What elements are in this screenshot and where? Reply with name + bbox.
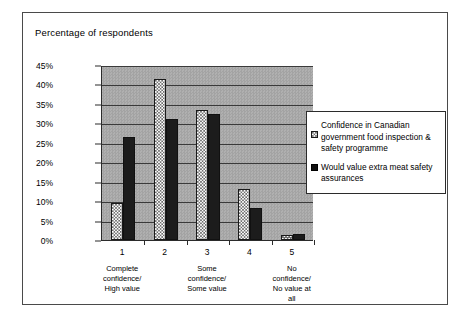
x-axis-tick-mark bbox=[229, 240, 230, 245]
y-axis-tick-label: 0% bbox=[17, 236, 53, 246]
legend-entry-series-b: Would value extra meat safety assurances bbox=[311, 162, 440, 185]
bar-series-a-2 bbox=[154, 79, 166, 240]
x-axis-tick-mark bbox=[144, 240, 145, 245]
x-axis-category-description-line: Some bbox=[186, 264, 228, 274]
bar-series-a-5 bbox=[281, 235, 293, 240]
gridline bbox=[102, 105, 313, 106]
x-axis-tick-mark bbox=[314, 240, 315, 245]
chart-legend: Confidence in Canadian government food i… bbox=[306, 111, 446, 194]
bar-series-a-4 bbox=[238, 189, 250, 240]
x-axis-category-1: 1Completeconfidence/High value bbox=[101, 247, 143, 294]
chart-frame: Percentage of respondents 0%5%10%15%20%2… bbox=[22, 12, 448, 305]
x-axis-category-description-line: Some value bbox=[186, 284, 228, 294]
y-axis-tick-label: 5% bbox=[17, 217, 53, 227]
y-axis-tick-label: 40% bbox=[17, 80, 53, 90]
x-axis-category-description-line: confidence/ bbox=[186, 274, 228, 284]
legend-label: Confidence in Canadian government food i… bbox=[321, 120, 440, 155]
x-axis-category-description-line: No value at bbox=[271, 284, 313, 294]
bar-series-a-1 bbox=[111, 203, 123, 240]
legend-swatch-series-b bbox=[311, 164, 318, 171]
bar-series-b-3 bbox=[208, 114, 220, 240]
page-title: Percentage of respondents bbox=[35, 27, 153, 38]
x-axis-category-description-line: confidence/ bbox=[271, 274, 313, 284]
legend-label: Would value extra meat safety assurances bbox=[321, 162, 440, 185]
x-axis-category-description-line: High value bbox=[101, 284, 143, 294]
y-axis-tick-label: 15% bbox=[17, 178, 53, 188]
gridline bbox=[102, 66, 313, 67]
bar-series-b-1 bbox=[123, 137, 135, 240]
x-axis-category-number: 5 bbox=[271, 247, 313, 258]
x-axis-category-description-line: all bbox=[271, 294, 313, 304]
x-axis-category-number: 3 bbox=[186, 247, 228, 258]
legend-entry-series-a: Confidence in Canadian government food i… bbox=[311, 120, 440, 155]
x-axis-category-description-line: confidence/ bbox=[101, 274, 143, 284]
y-axis-tick-label: 35% bbox=[17, 100, 53, 110]
x-axis-category-3: 3Someconfidence/Some value bbox=[186, 247, 228, 294]
x-axis-tick-mark bbox=[272, 240, 273, 245]
x-axis-category-number: 4 bbox=[228, 247, 270, 258]
plot-wrapper: 0%5%10%15%20%25%30%35%40%45% 1Completeco… bbox=[58, 66, 313, 241]
plot-area bbox=[101, 66, 313, 241]
x-axis-category-description-line: No bbox=[271, 264, 313, 274]
x-axis-tick-mark bbox=[187, 240, 188, 245]
x-axis-category-number: 1 bbox=[101, 247, 143, 258]
x-axis-category-2: 2 bbox=[143, 247, 185, 264]
x-axis-category-5: 5Noconfidence/No value atall bbox=[271, 247, 313, 304]
x-axis-category-4: 4 bbox=[228, 247, 270, 264]
y-axis-tick-label: 30% bbox=[17, 119, 53, 129]
legend-swatch-series-a bbox=[311, 131, 318, 138]
x-axis-category-number: 2 bbox=[143, 247, 185, 258]
y-axis-tick-label: 45% bbox=[17, 61, 53, 71]
bar-series-b-5 bbox=[293, 234, 305, 240]
bar-series-b-2 bbox=[166, 119, 178, 240]
bar-series-b-4 bbox=[250, 208, 262, 240]
y-axis-tick-label: 25% bbox=[17, 139, 53, 149]
y-axis-tick-label: 20% bbox=[17, 158, 53, 168]
x-axis-category-description-line: Complete bbox=[101, 264, 143, 274]
bar-series-a-3 bbox=[196, 110, 208, 240]
gridline bbox=[102, 85, 313, 86]
y-axis-tick-label: 10% bbox=[17, 197, 53, 207]
